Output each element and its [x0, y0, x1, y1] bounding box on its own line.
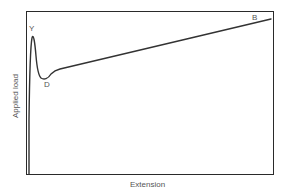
- y-axis-label: Applied load: [12, 74, 20, 118]
- load-extension-diagram: Y D B Extension Applied load: [0, 0, 290, 196]
- point-label-b: B: [252, 14, 257, 22]
- x-axis-label: Extension: [130, 181, 165, 189]
- load-extension-curve: [0, 0, 290, 196]
- point-label-y: Y: [29, 25, 34, 33]
- point-label-d: D: [44, 81, 50, 89]
